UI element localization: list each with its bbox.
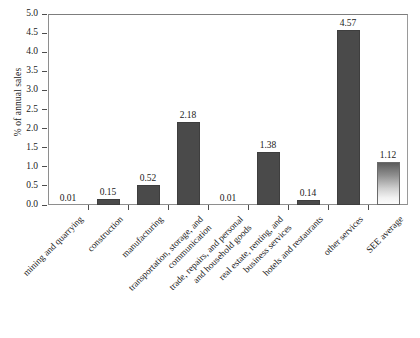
bar-value-label: 0.01 [48, 193, 88, 204]
bar [137, 185, 160, 205]
x-tick-mark [288, 205, 289, 210]
bar [377, 162, 400, 205]
x-tick-mark [368, 205, 369, 210]
y-tick-label: 1.0 [0, 160, 38, 172]
y-tick-mark [42, 14, 47, 15]
y-tick-mark [42, 166, 47, 167]
bar [337, 30, 360, 205]
y-tick-label: 1.5 [0, 141, 38, 153]
y-tick-label: 4.0 [0, 45, 38, 57]
bar-value-label: 0.52 [128, 173, 168, 184]
x-tick-mark [248, 205, 249, 210]
x-tick-mark [208, 205, 209, 210]
bar-value-label: 2.18 [168, 110, 208, 121]
bar-value-label: 4.57 [328, 18, 368, 29]
y-tick-label: 2.0 [0, 122, 38, 134]
x-tick-mark [128, 205, 129, 210]
y-tick-mark [42, 90, 47, 91]
y-tick-mark [42, 71, 47, 72]
x-tick-mark [328, 205, 329, 210]
bar [97, 199, 120, 205]
x-tick-mark [168, 205, 169, 210]
y-tick-mark [42, 33, 47, 34]
bar-chart: % of annual sales 0.00.51.01.52.02.53.03… [0, 0, 420, 338]
x-axis-label-line: other services [322, 214, 365, 257]
y-tick-mark [42, 205, 47, 206]
y-tick-mark [42, 185, 47, 186]
bar-value-label: 0.14 [288, 188, 328, 199]
x-axis-label-line: construction [85, 214, 125, 254]
y-tick-label: 0.5 [0, 179, 38, 191]
bar-value-label: 1.38 [248, 140, 288, 151]
y-tick-label: 4.5 [0, 26, 38, 38]
bar-value-label: 0.01 [208, 193, 248, 204]
y-tick-label: 5.0 [0, 7, 38, 19]
y-tick-label: 3.5 [0, 64, 38, 76]
y-tick-mark [42, 128, 47, 129]
bar [257, 152, 280, 205]
bar [297, 200, 320, 205]
y-tick-mark [42, 52, 47, 53]
x-tick-mark [88, 205, 89, 210]
bar-value-label: 1.12 [368, 150, 408, 161]
y-tick-label: 0.0 [0, 198, 38, 210]
y-tick-label: 2.5 [0, 103, 38, 115]
bar [177, 122, 200, 205]
y-tick-label: 3.0 [0, 83, 38, 95]
bar-value-label: 0.15 [88, 187, 128, 198]
y-tick-mark [42, 109, 47, 110]
x-axis-label-line: SEE average [364, 214, 405, 255]
y-tick-mark [42, 147, 47, 148]
